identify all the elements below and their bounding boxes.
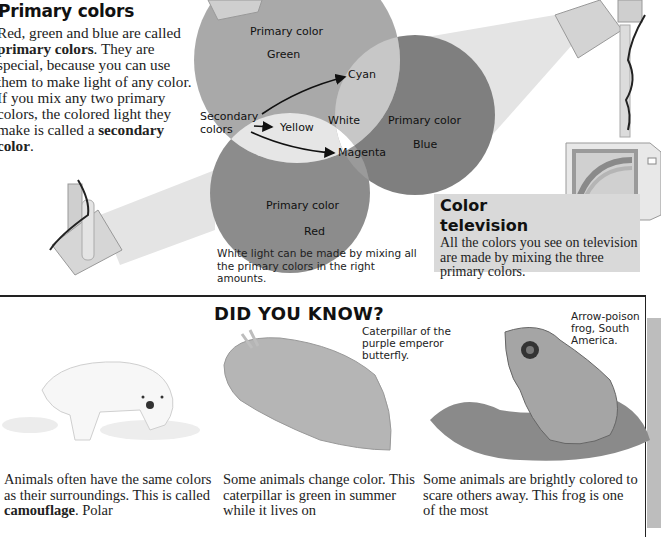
- frog-caption: Arrow-poison frog, South America.: [571, 310, 646, 346]
- spotlight-right-icon: [555, 0, 645, 137]
- color-tv-heading: Color television: [440, 196, 528, 236]
- primary-colors-body: Red, green and blue are called primary c…: [0, 25, 197, 155]
- red-circle-name: Red: [304, 225, 325, 238]
- yellow-label: Yellow: [280, 121, 314, 134]
- cyan-label: Cyan: [348, 68, 376, 81]
- text-run: . Polar: [75, 502, 113, 518]
- blue-circle-name: Blue: [413, 138, 437, 151]
- term-primary-colors: primary colors: [0, 40, 94, 57]
- color-tv-heading-line1: Color: [440, 196, 528, 216]
- color-tv-heading-line2: television: [440, 216, 528, 236]
- caterpillar-caption: Caterpillar of the purple emperor butter…: [362, 325, 472, 361]
- green-circle-label: Primary color: [250, 25, 323, 38]
- color-tv-body: All the colors you see on television are…: [440, 236, 638, 280]
- magenta-label: Magenta: [338, 146, 386, 159]
- primary-colors-heading: Primary colors: [0, 1, 134, 21]
- red-circle-label: Primary color: [266, 199, 339, 212]
- text-run: Red, green and blue are called: [0, 24, 181, 41]
- green-circle-name: Green: [267, 48, 300, 61]
- text-run: Animals often have the same colors as th…: [4, 471, 211, 503]
- frog-story: Some animals are brightly colored to sca…: [423, 472, 638, 519]
- did-you-know-illustrations: [0, 300, 661, 465]
- term-camouflage: camouflage: [4, 502, 75, 518]
- text-run: .: [30, 137, 34, 154]
- camouflage-story: Animals often have the same colors as th…: [4, 472, 219, 519]
- secondary-colors-label: Secondary colors: [200, 110, 260, 136]
- white-label: White: [328, 114, 360, 127]
- caterpillar-story: Some animals change color. This caterpil…: [223, 472, 418, 519]
- venn-caption: White light can be made by mixing all th…: [217, 247, 417, 285]
- polar-bear-illustration: [2, 362, 200, 440]
- blue-circle-label: Primary color: [388, 114, 461, 127]
